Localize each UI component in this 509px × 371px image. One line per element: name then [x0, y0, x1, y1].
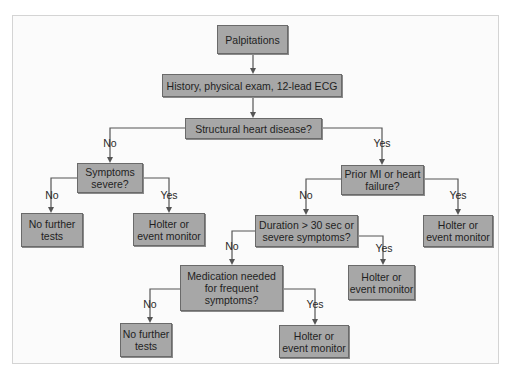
edge-label-no: No — [143, 298, 156, 310]
node-label: Holter or — [294, 330, 334, 342]
node-holter-1: Holter or event monitor — [133, 213, 205, 246]
edge-label-yes: Yes — [449, 189, 466, 201]
edge-label-yes: Yes — [373, 137, 390, 149]
node-label: No further — [123, 328, 170, 340]
node-palpitations: Palpitations — [217, 25, 288, 54]
edge-label-no: No — [299, 189, 312, 201]
node-duration: Duration > 30 sec or severe symptoms? — [255, 215, 358, 247]
node-label: event monitor — [282, 342, 346, 354]
node-label: tests — [41, 230, 63, 242]
node-symptoms-severe: Symptoms severe? — [77, 163, 143, 193]
node-prior-mi: Prior MI or heart failure? — [341, 165, 424, 195]
node-label: symptoms? — [205, 294, 259, 306]
node-label: Medication needed — [187, 270, 276, 282]
node-label: failure? — [365, 180, 399, 192]
node-medication: Medication needed for frequent symptoms? — [180, 265, 283, 311]
edge-label-no: No — [45, 189, 58, 201]
edge-label-yes: Yes — [375, 242, 392, 254]
node-label: Symptoms — [85, 166, 135, 178]
edge-label-yes: Yes — [306, 298, 323, 310]
node-label: Holter or — [149, 218, 189, 230]
node-label: Holter or — [361, 271, 401, 283]
node-no-further-tests-1: No further tests — [21, 213, 83, 247]
edge-label-no: No — [225, 240, 238, 252]
node-holter-3: Holter or event monitor — [348, 265, 415, 300]
node-holter-4: Holter or event monitor — [279, 325, 349, 358]
node-structural-heart-disease: Structural heart disease? — [185, 118, 322, 139]
node-label: Structural heart disease? — [195, 123, 312, 135]
node-label: severe symptoms? — [262, 231, 350, 243]
node-label: tests — [135, 340, 157, 352]
node-label: event monitor — [350, 283, 414, 295]
node-holter-2: Holter or event monitor — [423, 215, 493, 247]
node-label: Duration > 30 sec or — [259, 219, 354, 231]
edge-label-no: No — [103, 137, 116, 149]
node-label: event monitor — [426, 231, 490, 243]
node-label: for frequent — [205, 282, 259, 294]
node-label: severe? — [91, 178, 128, 190]
node-label: event monitor — [137, 230, 201, 242]
edge-label-yes: Yes — [160, 189, 177, 201]
node-label: Palpitations — [225, 34, 279, 46]
node-label: No further — [29, 218, 76, 230]
node-label: History, physical exam, 12-lead ECG — [167, 80, 338, 92]
node-label: Holter or — [438, 219, 478, 231]
node-label: Prior MI or heart — [345, 168, 421, 180]
node-history: History, physical exam, 12-lead ECG — [162, 74, 342, 97]
node-no-further-tests-2: No further tests — [120, 323, 172, 357]
